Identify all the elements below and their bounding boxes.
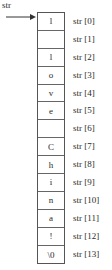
index-label: str [6] <box>73 119 99 137</box>
array-cell: ! <box>38 228 64 246</box>
pointer-label: str <box>2 0 11 10</box>
array-cell: l <box>38 49 64 67</box>
index-label: str [7] <box>73 137 99 155</box>
index-labels: str [0] str [1] str [2] str [3] str [4] … <box>73 12 99 262</box>
array-cell: v <box>38 85 64 103</box>
index-label: str [8] <box>73 155 99 173</box>
array-cell: \0 <box>38 246 64 264</box>
array-cell: a <box>38 210 64 228</box>
array-cell: o <box>38 67 64 85</box>
char-array: l l o v e C h i n a ! \0 <box>37 12 65 264</box>
index-label: str [5] <box>73 101 99 119</box>
index-label: str [13] <box>73 245 99 263</box>
index-label: str [4] <box>73 84 99 102</box>
array-cell: C <box>38 138 64 156</box>
array-cell <box>38 31 64 49</box>
array-cell: h <box>38 156 64 174</box>
index-label: str [0] <box>73 12 99 30</box>
array-cell: i <box>38 174 64 192</box>
index-label: str [11] <box>73 209 99 227</box>
index-label: str [2] <box>73 48 99 66</box>
array-cell <box>38 120 64 138</box>
array-cell: n <box>38 192 64 210</box>
index-label: str [9] <box>73 173 99 191</box>
index-label: str [1] <box>73 30 99 48</box>
index-label: str [3] <box>73 66 99 84</box>
array-cell: e <box>38 102 64 120</box>
array-cell: l <box>38 13 64 31</box>
arrow-icon <box>6 14 36 20</box>
index-label: str [12] <box>73 227 99 245</box>
index-label: str [10] <box>73 191 99 209</box>
